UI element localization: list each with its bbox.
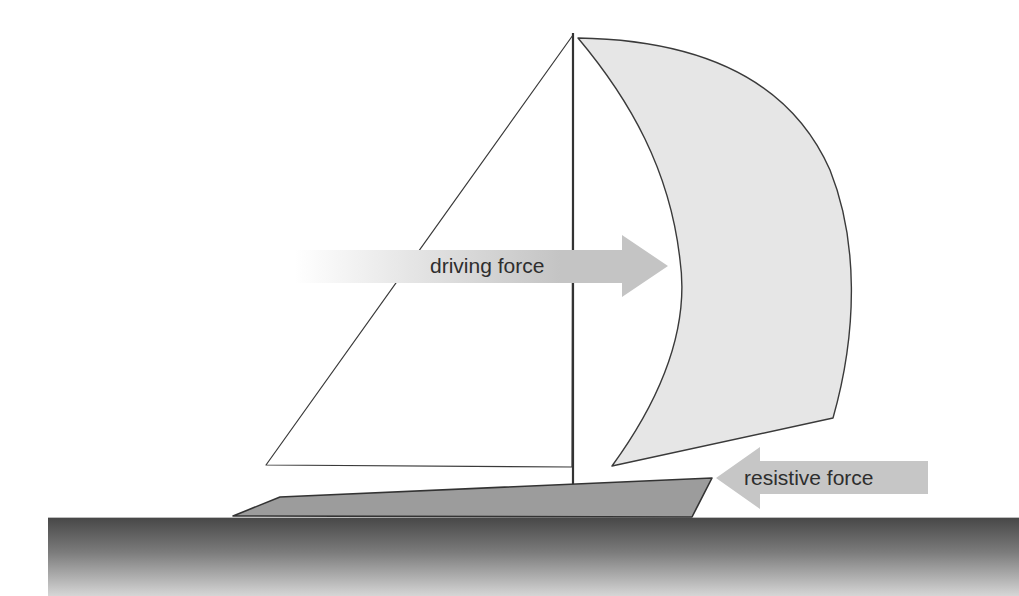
diagram-canvas <box>0 0 1019 596</box>
driving-force-label: driving force <box>430 254 544 278</box>
sailboat-force-diagram: driving force resistive force <box>0 0 1019 596</box>
resistive-force-label: resistive force <box>744 466 874 490</box>
water <box>48 517 1019 596</box>
hull <box>233 478 712 517</box>
